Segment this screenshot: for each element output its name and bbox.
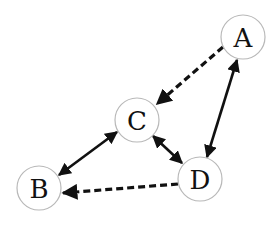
node-b-label: B (29, 174, 48, 204)
graph-canvas: A C B D (0, 0, 278, 227)
edge-d-to-b[interactable] (63, 184, 178, 193)
node-c-label: C (127, 106, 147, 136)
node-d[interactable]: D (178, 157, 222, 201)
node-d-label: D (190, 165, 211, 195)
edge-c-d[interactable] (153, 136, 182, 163)
edge-a-to-c[interactable] (157, 47, 223, 104)
node-a[interactable]: A (221, 15, 265, 59)
node-b[interactable]: B (17, 166, 61, 210)
node-c[interactable]: C (115, 98, 159, 142)
edge-c-b[interactable] (59, 132, 117, 175)
edge-a-d[interactable] (207, 60, 237, 157)
node-a-label: A (233, 23, 254, 53)
